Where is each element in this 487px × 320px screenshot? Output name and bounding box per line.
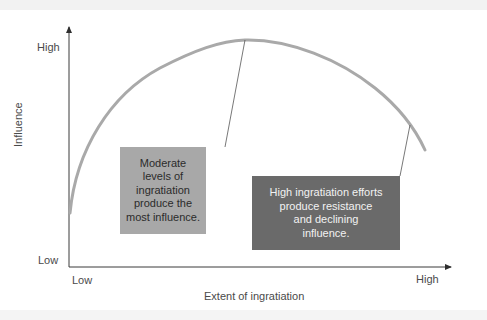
callout-line: levels of [126,170,200,184]
x-axis-low-label: Low [72,275,92,286]
y-axis-low-label: Low [38,255,58,266]
leader-line-high [400,125,410,176]
leader-line-moderate [225,40,245,147]
x-axis-title: Extent of ingratiation [204,291,304,302]
y-axis-high-label: High [37,42,60,53]
callout-line: High ingratiation efforts [270,186,383,200]
callout-line: influence. [270,227,383,241]
callout-line: produce the [126,197,200,211]
callout-moderate-ingratiation: Moderate levels of ingratiation produce … [120,147,206,234]
chart-canvas [0,0,487,320]
callout-line: Moderate [126,157,200,171]
y-axis-title: Influence [12,102,24,147]
callout-line: ingratiation [126,184,200,198]
callout-line: produce resistance [270,200,383,214]
callout-high-ingratiation: High ingratiation efforts produce resist… [252,176,400,250]
x-axis-high-label: High [416,274,439,285]
callout-line: and declining [270,213,383,227]
callout-line: most influence. [126,211,200,225]
